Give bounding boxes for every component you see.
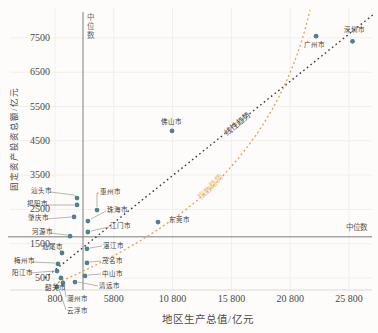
median-x-label: 中位数 — [86, 13, 94, 40]
data-point — [59, 276, 64, 281]
city-label: 梅州市 — [14, 258, 35, 265]
leader-line — [91, 211, 106, 219]
city-label: 湛江市 — [103, 243, 124, 250]
city-label: 汕头市 — [31, 188, 52, 195]
city-label: 云浮市 — [67, 308, 88, 315]
city-label: 汕尾市 — [42, 244, 63, 251]
data-point — [85, 261, 90, 266]
x-tick-label: 10 800 — [150, 294, 196, 304]
city-label: 中山市 — [102, 271, 123, 278]
y-tick-label: 6500 — [16, 67, 50, 77]
city-label: 阳江市 — [12, 270, 33, 277]
data-point — [95, 208, 100, 213]
data-point — [85, 246, 90, 251]
y-axis-title: 固定资产投资总额/亿元 — [7, 84, 19, 194]
y-tick-label: 4500 — [16, 136, 50, 146]
city-label: 河源市 — [32, 229, 53, 236]
x-tick-label: 15 800 — [208, 294, 254, 304]
data-point — [72, 215, 77, 220]
data-point — [86, 230, 91, 235]
data-point — [170, 129, 175, 134]
x-tick-label: 20 800 — [267, 294, 313, 304]
data-point — [75, 196, 80, 201]
leader-line — [90, 261, 101, 262]
city-label: 东莞市 — [169, 217, 190, 224]
data-point — [56, 262, 61, 267]
data-point — [55, 269, 60, 274]
data-point — [75, 203, 80, 208]
data-point — [83, 274, 88, 279]
leader-line — [97, 193, 99, 207]
city-label: 清远市 — [99, 283, 120, 290]
leader-line — [90, 246, 102, 248]
city-label: 江门市 — [110, 223, 131, 230]
data-point — [86, 219, 91, 224]
scatter-chart: 7500650055004500350025001500500 80058001… — [0, 0, 378, 333]
leader-line — [46, 217, 71, 219]
city-label: 惠州市 — [100, 189, 121, 196]
x-tick-label: 5800 — [91, 294, 137, 304]
x-tick-label: 25 800 — [326, 294, 372, 304]
y-tick-label: 7500 — [16, 33, 50, 43]
city-label: 珠海市 — [107, 207, 128, 214]
city-label: 肇庆市 — [28, 215, 49, 222]
median-y-label: 中位数 — [346, 224, 367, 232]
leader-line — [32, 262, 55, 263]
data-point — [156, 220, 161, 225]
city-label: 广州市 — [304, 42, 325, 49]
leader-line — [88, 274, 101, 275]
y-tick-label: 3500 — [16, 170, 50, 180]
trend-linear-line — [45, 14, 374, 278]
city-label: 潮州市 — [67, 296, 88, 303]
city-label: 韶关市 — [45, 285, 66, 292]
city-label: 佛山市 — [161, 119, 182, 126]
y-tick-label: 5500 — [16, 102, 50, 112]
x-axis-title: 地区生产总值/亿元 — [108, 311, 308, 326]
data-point — [350, 39, 355, 44]
data-point — [314, 34, 319, 39]
city-label: 揭阳市 — [27, 201, 48, 208]
leader-line — [50, 192, 77, 197]
data-point — [60, 251, 65, 256]
leader-line — [78, 282, 98, 286]
city-label: 茂名市 — [102, 258, 123, 265]
data-point — [68, 234, 73, 239]
data-point — [73, 280, 78, 285]
city-label: 深圳市 — [344, 27, 365, 34]
